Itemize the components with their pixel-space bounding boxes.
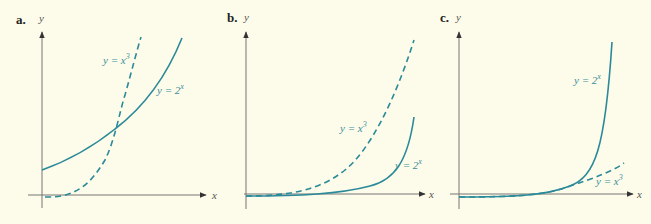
curve-2-to-x bbox=[246, 117, 414, 196]
x-axis-label: x bbox=[636, 188, 642, 200]
curve-x-cubed bbox=[45, 37, 141, 197]
panel-label: b. bbox=[227, 10, 237, 25]
panel-c: c. y x y = 2x y = x3 bbox=[440, 10, 642, 209]
curve-label-x-cubed: y = x3 bbox=[595, 173, 623, 187]
x-axis-label: x bbox=[428, 188, 434, 200]
curve-label-2-to-x: y = 2x bbox=[156, 82, 184, 96]
curve-label-2-to-x: y = 2x bbox=[394, 157, 422, 171]
curve-2-to-x bbox=[459, 42, 612, 197]
y-axis-label: y bbox=[38, 12, 44, 24]
figure-comparison-2x-x3: a. y x y = x3 y = 2x b. y x y = x3 y = 2… bbox=[0, 0, 651, 224]
panel-a: a. y x y = x3 y = 2x bbox=[16, 12, 217, 208]
panel-b: b. y x y = x3 y = 2x bbox=[227, 10, 434, 209]
y-axis-label: y bbox=[455, 11, 461, 23]
curve-label-x-cubed: y = x3 bbox=[339, 120, 367, 134]
curve-label-2-to-x: y = 2x bbox=[573, 72, 601, 86]
panel-label: c. bbox=[440, 10, 449, 25]
y-axis-label: y bbox=[243, 11, 249, 23]
curve-x-cubed bbox=[246, 40, 414, 196]
curve-label-x-cubed: y = x3 bbox=[102, 52, 130, 66]
panel-label: a. bbox=[16, 12, 26, 27]
x-axis-label: x bbox=[211, 189, 217, 201]
